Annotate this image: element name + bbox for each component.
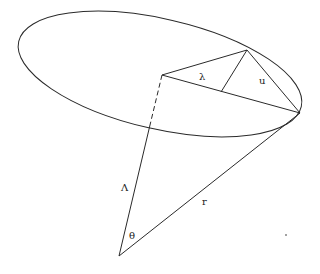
axis-dashed [150,75,162,125]
r-segment [119,113,300,256]
u-segment [247,50,300,113]
cone-diagram: λ u Λ r θ [0,0,320,274]
label-lambda-capital: Λ [120,182,129,193]
label-u: u [259,75,266,86]
label-theta: θ [129,230,135,241]
label-lambda-small: λ [199,71,206,82]
radius-segment [162,75,300,113]
dot [285,234,287,236]
ellipse [6,0,313,160]
label-r: r [202,196,207,207]
